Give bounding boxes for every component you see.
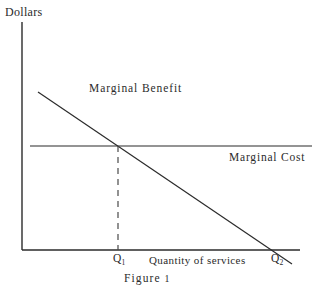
figure-plot-area bbox=[0, 0, 318, 295]
q2-letter: Q bbox=[271, 252, 280, 264]
q2-marker-label: Q2 bbox=[271, 253, 283, 265]
marginal-cost-label: Marginal Cost bbox=[229, 152, 305, 164]
figure-container: Dollars Marginal Benefit Marginal Cost Q… bbox=[0, 0, 318, 295]
figure-caption-word: Figure bbox=[124, 272, 161, 284]
marginal-benefit-curve bbox=[38, 92, 292, 264]
y-axis-label: Dollars bbox=[5, 6, 42, 18]
figure-caption-number: 1 bbox=[165, 273, 171, 284]
figure-caption: Figure 1 bbox=[124, 273, 171, 285]
marginal-benefit-label: Marginal Benefit bbox=[89, 83, 182, 95]
q1-subscript: 1 bbox=[122, 258, 126, 267]
q1-marker-label: Q1 bbox=[113, 253, 125, 265]
x-axis-label: Quantity of services bbox=[149, 255, 246, 266]
q2-subscript: 2 bbox=[280, 258, 284, 267]
q1-letter: Q bbox=[113, 252, 122, 264]
